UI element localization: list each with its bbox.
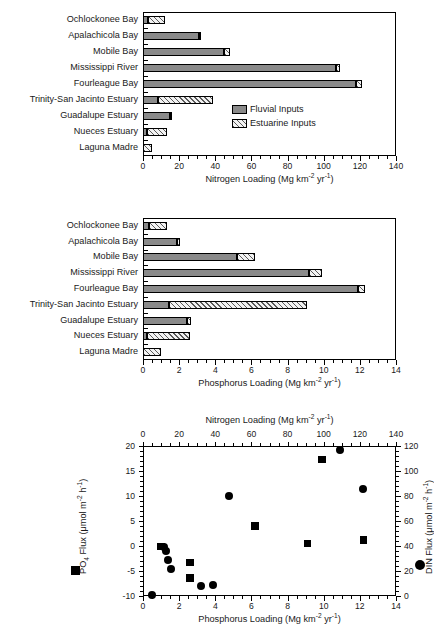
bar-segment-estuarine xyxy=(224,48,229,56)
y-tick-left-label: 15 xyxy=(125,467,135,476)
x-tick-minor xyxy=(279,596,280,599)
x-tick-minor xyxy=(197,156,198,159)
y-tick-left-minor xyxy=(140,511,143,512)
data-point-po4 xyxy=(304,540,312,548)
y-tick-left-label: 5 xyxy=(130,517,135,526)
category-label: Fourleague Bay xyxy=(74,79,138,88)
bar-row xyxy=(143,96,396,104)
x-tick-minor xyxy=(188,156,189,159)
x-tick-minor xyxy=(369,596,370,599)
x-tick-minor xyxy=(224,156,225,159)
y-tick-left-minor xyxy=(140,476,143,477)
x-tick-major xyxy=(143,596,144,601)
bar-row xyxy=(143,317,396,325)
y-tick xyxy=(143,124,148,125)
x-tick-major xyxy=(179,596,180,601)
y-tick-left-minor xyxy=(140,526,143,527)
y-tick-right-minor xyxy=(396,461,399,462)
bar-row xyxy=(143,64,396,72)
x-tick-top-minor xyxy=(260,443,261,446)
y-tick-right-minor xyxy=(396,541,399,542)
y-tick-left-major xyxy=(139,446,144,447)
category-label: Laguna Madre xyxy=(79,347,138,356)
y-tick xyxy=(143,234,148,235)
y-tick-left-major xyxy=(139,496,144,497)
bar-segment-estuarine xyxy=(170,112,172,120)
x-tick-minor xyxy=(342,596,343,599)
x-tick-top-minor xyxy=(161,443,162,446)
category-label: Nueces Estuary xyxy=(74,127,138,136)
bar-segment-fluvial xyxy=(143,253,237,261)
x-tick-top-minor xyxy=(333,443,334,446)
x-tick-minor xyxy=(152,360,153,363)
legend-swatch-estuarine xyxy=(232,119,247,128)
category-label: Ochlockonee Bay xyxy=(67,221,138,230)
y-tick xyxy=(143,28,148,29)
y-axis-title-right: DIN Flux (μmol m-2 h-1) xyxy=(424,480,434,574)
data-point-po4 xyxy=(186,559,194,567)
y-tick-left-minor xyxy=(140,486,143,487)
y-tick-right-label: 60 xyxy=(404,517,414,526)
x-tick-minor xyxy=(161,596,162,599)
y-tick-left-minor xyxy=(140,466,143,467)
panel-phosphorus-loading: Ochlockonee BayApalachicola BayMobile Ba… xyxy=(0,213,431,405)
data-point-din xyxy=(197,582,205,590)
y-tick-left-major xyxy=(139,546,144,547)
x-tick-label: 140 xyxy=(389,162,403,171)
x-tick-minor xyxy=(233,156,234,159)
y-tick xyxy=(143,140,148,141)
y-tick xyxy=(143,76,148,77)
category-label: Mississippi River xyxy=(70,63,138,72)
category-label: Nueces Estuary xyxy=(74,331,138,340)
y-tick-left-major xyxy=(139,521,144,522)
x-tick-major xyxy=(396,360,397,365)
x-tick-minor xyxy=(378,360,379,363)
x-tick-top-minor xyxy=(224,443,225,446)
y-tick-left-minor xyxy=(140,591,143,592)
x-tick-top-minor xyxy=(369,443,370,446)
category-label: Fourleague Bay xyxy=(74,284,138,293)
y-tick-right-minor xyxy=(396,526,399,527)
y-tick xyxy=(143,265,148,266)
x-tick-minor xyxy=(233,360,234,363)
y-tick-left-minor xyxy=(140,456,143,457)
x-tick-minor xyxy=(387,156,388,159)
y-tick-right-minor xyxy=(396,561,399,562)
y-axis-title-left: PO4 Flux (μmol m-2 h-1) xyxy=(78,479,88,574)
x-tick-top-label: 80 xyxy=(283,430,293,439)
y-tick-left-minor xyxy=(140,566,143,567)
y-tick-left-minor xyxy=(140,451,143,452)
x-tick-top-major xyxy=(251,442,252,447)
panel-nitrogen-loading: Ochlockonee BayApalachicola BayMobile Ba… xyxy=(0,0,431,210)
bar-segment-estuarine xyxy=(147,332,190,340)
x-tick-top-minor xyxy=(170,443,171,446)
bar-row xyxy=(143,128,396,136)
y-tick-left-label: 10 xyxy=(125,492,135,501)
bar-row xyxy=(143,32,396,40)
x-tick-minor xyxy=(315,360,316,363)
y-tick-left-minor xyxy=(140,576,143,577)
y-tick xyxy=(143,281,148,282)
x-tick-major xyxy=(215,156,216,161)
y-tick-right-minor xyxy=(396,581,399,582)
x-tick-major xyxy=(143,360,144,365)
x-tick-top-minor xyxy=(206,443,207,446)
x-tick-top-minor xyxy=(188,443,189,446)
bar-row xyxy=(143,348,396,356)
x-tick-top-label: 40 xyxy=(211,430,221,439)
x-tick-minor xyxy=(333,360,334,363)
y-tick-right-major xyxy=(396,521,401,522)
category-label: Trinity-San Jacinto Estuary xyxy=(30,300,138,309)
x-tick-top-minor xyxy=(270,443,271,446)
y-tick-right-major xyxy=(396,546,401,547)
x-tick-top-major xyxy=(324,442,325,447)
x-tick-major xyxy=(143,156,144,161)
x-tick-label: 40 xyxy=(211,162,221,171)
x-tick-minor xyxy=(242,596,243,599)
y-tick xyxy=(143,313,148,314)
bar-row xyxy=(143,332,396,340)
x-tick-minor xyxy=(224,596,225,599)
y-tick xyxy=(143,92,148,93)
x-axis-title-bottom: Phosphorus Loading (Mg km-2 yr-1) xyxy=(198,614,341,624)
